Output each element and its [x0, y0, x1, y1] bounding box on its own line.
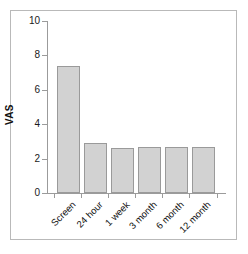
x-axis-tick: [54, 194, 55, 198]
x-axis-tick: [135, 194, 136, 198]
chart-figure: 0 2 4 6 8 10 VAS Screen 24 hour 1 week 3…: [0, 0, 248, 254]
y-axis-tick-label: 10: [23, 16, 40, 26]
bar-3-month: [138, 147, 161, 193]
x-axis-tick: [108, 194, 109, 198]
bar-screen: [57, 66, 80, 193]
bar-1-week: [111, 148, 134, 193]
y-axis-tick: [42, 193, 47, 194]
bar-12-month: [192, 147, 215, 193]
y-axis-tick-label: 0: [26, 188, 40, 198]
y-axis-tick: [42, 90, 47, 91]
y-axis-tick: [42, 159, 47, 160]
x-axis-tick: [189, 194, 190, 198]
y-axis-tick-label: 8: [26, 50, 40, 60]
y-axis-tick: [42, 55, 47, 56]
bar-24-hour: [84, 143, 107, 193]
x-axis-tick: [162, 194, 163, 198]
y-axis-line: [47, 21, 48, 194]
y-axis-tick: [42, 21, 47, 22]
x-axis-tick: [217, 194, 218, 198]
x-axis-tick: [81, 194, 82, 198]
y-axis-tick-label: 2: [26, 154, 40, 164]
y-axis-title: VAS: [3, 111, 43, 125]
y-axis-tick-label: 6: [26, 85, 40, 95]
x-axis-line: [47, 193, 226, 194]
bar-6-month: [165, 147, 188, 193]
